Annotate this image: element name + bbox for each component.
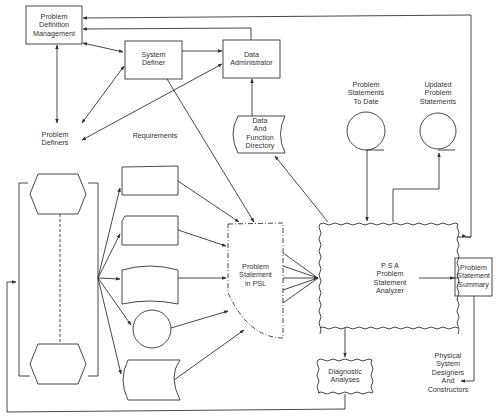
input-stored-shape bbox=[123, 360, 180, 400]
system-definer-label: System Definer bbox=[125, 51, 182, 68]
data-administrator-label: Data Administrator bbox=[223, 51, 280, 68]
input-circle-shape bbox=[133, 310, 171, 348]
ups-label: Updated Problem Statements bbox=[410, 81, 466, 106]
problem-definers-label: Problem Definers bbox=[30, 131, 80, 148]
psl-label: Problem Statement in PSL bbox=[228, 263, 283, 288]
input-manual-shape bbox=[122, 166, 178, 195]
pdm-label: Problem Definition Management bbox=[26, 13, 82, 38]
pss-label: Problem Statement Summary bbox=[455, 264, 492, 289]
diagnostic-label: Diagnostic Analyses bbox=[318, 368, 372, 385]
hex-top bbox=[30, 174, 86, 214]
psl-psa-flow-diagram: Problem Definition Management System Def… bbox=[0, 0, 498, 417]
requirements-label: Requirements bbox=[120, 132, 190, 140]
psa-label: P S A Problem Statement Analyzer bbox=[340, 262, 440, 296]
input-card-shape bbox=[122, 216, 178, 245]
physical-designers-label: Physical System Designers And Constructo… bbox=[425, 352, 471, 394]
ups-tape bbox=[420, 113, 456, 149]
hex-bottom bbox=[30, 344, 86, 384]
dfd-label: Data And Function Directory bbox=[236, 117, 284, 151]
pstd-label: Problem Statements To Date bbox=[338, 81, 394, 106]
input-tape-shape bbox=[122, 266, 178, 304]
pstd-tape bbox=[347, 112, 385, 150]
